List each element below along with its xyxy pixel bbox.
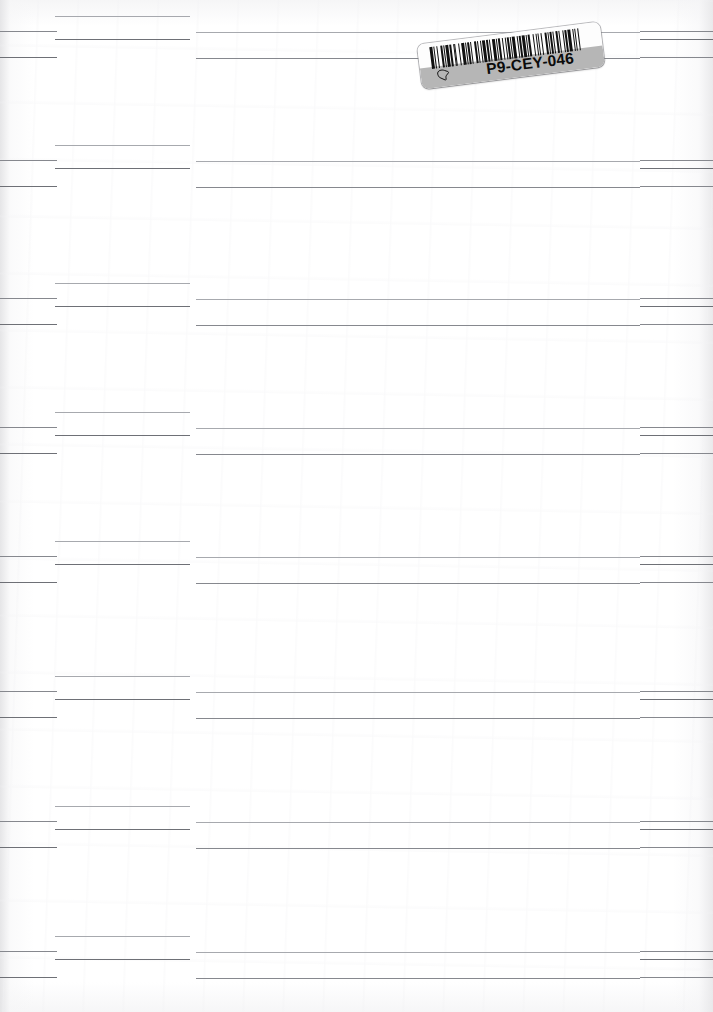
rule-line-col4-rule-b-g4 <box>640 564 713 565</box>
rule-line-col4-rule-b-g2 <box>640 306 713 307</box>
barcode-bar <box>436 46 440 68</box>
rule-line-center-rule-a-g7 <box>196 952 640 953</box>
rule-line-col4-rule-c-g2 <box>640 324 713 325</box>
rule-line-col1-rule-b-g2 <box>0 324 57 325</box>
rule-line-col2-rule-a-g2 <box>55 283 190 284</box>
rule-line-col4-rule-b-g6 <box>640 829 713 830</box>
scanned-page: P9-CEY-046 <box>0 0 713 1012</box>
rule-line-col2-rule-b-g4 <box>55 564 190 565</box>
rule-line-col4-rule-b-g0 <box>640 39 713 40</box>
rule-line-col4-rule-c-g4 <box>640 582 713 583</box>
rule-line-col4-rule-a-g0 <box>640 31 713 32</box>
rule-line-col2-rule-b-g3 <box>55 435 190 436</box>
rule-line-col4-rule-c-g7 <box>640 977 713 978</box>
hand-pointer-glyph <box>434 65 453 84</box>
rule-line-col2-rule-b-g6 <box>55 829 190 830</box>
rule-line-col2-rule-a-g1 <box>55 145 190 146</box>
rule-line-col1-rule-a-g5 <box>0 691 57 692</box>
paper-grain <box>0 0 713 1012</box>
rule-line-col1-rule-a-g3 <box>0 427 57 428</box>
rule-line-col2-rule-a-g4 <box>55 541 190 542</box>
rule-line-col2-rule-a-g3 <box>55 412 190 413</box>
rule-line-col2-rule-a-g0 <box>55 16 190 17</box>
rule-line-col1-rule-a-g0 <box>0 31 57 32</box>
rule-line-col4-rule-a-g6 <box>640 821 713 822</box>
rule-line-col1-rule-a-g1 <box>0 160 57 161</box>
rule-line-center-rule-b-g4 <box>196 583 640 584</box>
rule-line-col2-rule-b-g1 <box>55 168 190 169</box>
rule-line-center-rule-a-g5 <box>196 692 640 693</box>
rule-line-col4-rule-b-g5 <box>640 699 713 700</box>
rule-line-col4-rule-c-g0 <box>640 57 713 58</box>
rule-line-col1-rule-a-g7 <box>0 951 57 952</box>
rule-line-col4-rule-c-g6 <box>640 847 713 848</box>
rule-line-col1-rule-b-g0 <box>0 57 57 58</box>
rule-line-center-rule-a-g2 <box>196 299 640 300</box>
rule-line-center-rule-a-g6 <box>196 822 640 823</box>
rule-line-center-rule-b-g6 <box>196 848 640 849</box>
rule-line-col4-rule-c-g1 <box>640 186 713 187</box>
rule-line-col1-rule-a-g2 <box>0 298 57 299</box>
rule-line-center-rule-b-g3 <box>196 454 640 455</box>
rule-line-col4-rule-b-g3 <box>640 435 713 436</box>
rule-line-col4-rule-c-g5 <box>640 717 713 718</box>
rule-line-col2-rule-b-g7 <box>55 959 190 960</box>
rule-line-col4-rule-a-g3 <box>640 427 713 428</box>
rule-line-center-rule-b-g2 <box>196 325 640 326</box>
rule-line-center-rule-b-g1 <box>196 187 640 188</box>
rule-line-col4-rule-b-g1 <box>640 168 713 169</box>
rule-line-col1-rule-b-g3 <box>0 453 57 454</box>
rule-line-col1-rule-b-g4 <box>0 582 57 583</box>
rule-line-col4-rule-a-g2 <box>640 298 713 299</box>
rule-line-center-rule-b-g7 <box>196 978 640 979</box>
rule-line-col4-rule-a-g4 <box>640 556 713 557</box>
rule-line-col2-rule-a-g6 <box>55 806 190 807</box>
rule-line-col4-rule-a-g5 <box>640 691 713 692</box>
rule-line-col4-rule-b-g7 <box>640 959 713 960</box>
rule-line-col2-rule-a-g5 <box>55 676 190 677</box>
rule-line-col4-rule-a-g7 <box>640 951 713 952</box>
rule-line-col1-rule-b-g6 <box>0 847 57 848</box>
rule-line-center-rule-b-g5 <box>196 718 640 719</box>
rule-line-center-rule-a-g3 <box>196 428 640 429</box>
rule-line-col1-rule-b-g1 <box>0 186 57 187</box>
rule-line-col1-rule-b-g7 <box>0 977 57 978</box>
paper-texture <box>0 0 713 1012</box>
rule-line-col1-rule-a-g4 <box>0 556 57 557</box>
rule-line-col4-rule-c-g3 <box>640 453 713 454</box>
rule-line-col1-rule-a-g6 <box>0 821 57 822</box>
rule-line-col1-rule-b-g5 <box>0 717 57 718</box>
rule-line-col2-rule-b-g0 <box>55 39 190 40</box>
rule-line-center-rule-a-g4 <box>196 557 640 558</box>
rule-line-center-rule-a-g1 <box>196 161 640 162</box>
rule-line-col2-rule-b-g2 <box>55 306 190 307</box>
rule-line-col2-rule-b-g5 <box>55 699 190 700</box>
rule-line-col2-rule-a-g7 <box>55 936 190 937</box>
rule-line-col4-rule-a-g1 <box>640 160 713 161</box>
